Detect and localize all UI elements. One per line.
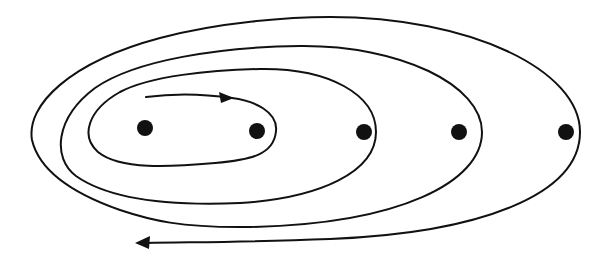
- arrow-left-icon: [135, 236, 150, 249]
- point-p1: [137, 120, 153, 136]
- point-p5: [558, 124, 574, 140]
- point-p4: [451, 124, 467, 140]
- point-p3: [356, 124, 372, 140]
- spiral-curve: [31, 17, 580, 243]
- points-group: [137, 120, 574, 140]
- arrow-right-icon: [219, 92, 234, 103]
- point-p2: [249, 123, 265, 139]
- spiral-diagram: [0, 0, 600, 262]
